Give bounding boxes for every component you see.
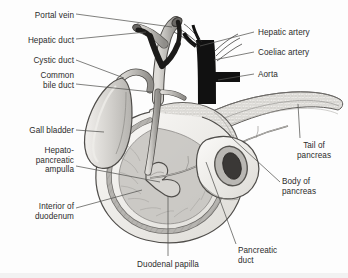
label-portal-vein: Portal vein xyxy=(8,11,74,21)
label-cystic-duct: Cystic duct xyxy=(8,56,74,66)
label-duodenal-papilla: Duodenal papilla xyxy=(118,260,218,270)
aorta-and-arteries xyxy=(174,24,242,104)
bottom-border xyxy=(0,273,348,278)
label-body-of-pancreas: Body ofpancreas xyxy=(282,177,316,196)
label-gall-bladder: Gall bladder xyxy=(4,126,74,136)
label-hepatic-artery: Hepatic artery xyxy=(258,28,310,38)
duodenum-distal-opening xyxy=(197,137,259,200)
label-coeliac-artery: Coeliac artery xyxy=(258,48,309,58)
label-hepatic-duct: Hepatic duct xyxy=(4,36,74,46)
label-pancreatic-duct: Pancreaticduct xyxy=(238,246,277,265)
label-common-bile-duct: Commonbile duct xyxy=(8,71,74,90)
label-hepatopancreatic-ampulla: Hepato-pancreaticampulla xyxy=(8,146,74,175)
label-interior-of-duodenum: Interior ofduodenum xyxy=(8,202,74,221)
label-tail-of-pancreas: Tail ofpancreas xyxy=(284,141,344,160)
label-aorta: Aorta xyxy=(258,70,278,80)
anatomy-figure: Portal vein Hepatic duct Cystic duct Com… xyxy=(0,0,348,278)
